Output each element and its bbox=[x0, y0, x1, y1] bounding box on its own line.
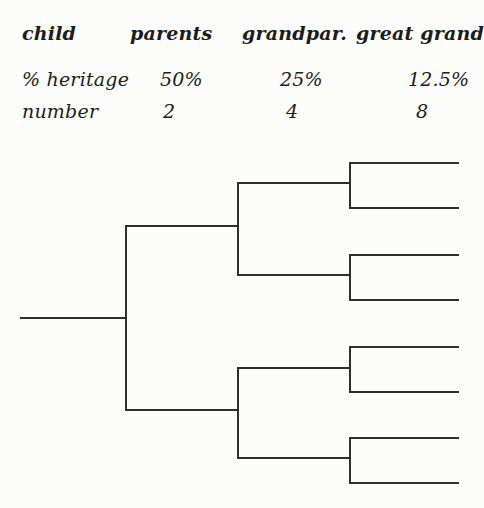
grandparent-line-4 bbox=[237, 457, 351, 459]
greatgrand-line-6 bbox=[349, 391, 459, 393]
greatgrand-line-8 bbox=[349, 482, 459, 484]
greatgrand-line-4 bbox=[349, 299, 459, 301]
parent-top-line bbox=[125, 225, 239, 227]
grandparents-bottom-bracket-vertical bbox=[237, 367, 239, 459]
greatgrand-line-2 bbox=[349, 207, 459, 209]
greatgrand-line-5 bbox=[349, 346, 459, 348]
child-line bbox=[20, 317, 127, 319]
greatgrand-line-3 bbox=[349, 254, 459, 256]
grandparent-line-3 bbox=[237, 367, 351, 369]
grandparent-line-1 bbox=[237, 182, 351, 184]
greatgrand-line-7 bbox=[349, 437, 459, 439]
greatgrand-bracket-1-vertical bbox=[349, 162, 351, 209]
pedigree-tree bbox=[0, 0, 484, 508]
parents-bracket-vertical bbox=[125, 225, 127, 411]
grandparent-line-2 bbox=[237, 274, 351, 276]
greatgrand-line-1 bbox=[349, 162, 459, 164]
parent-bottom-line bbox=[125, 409, 239, 411]
grandparents-top-bracket-vertical bbox=[237, 182, 239, 276]
greatgrand-bracket-2-vertical bbox=[349, 254, 351, 301]
greatgrand-bracket-4-vertical bbox=[349, 437, 351, 484]
pedigree-figure: child parents grandpar. great grand % he… bbox=[0, 0, 484, 508]
greatgrand-bracket-3-vertical bbox=[349, 346, 351, 393]
